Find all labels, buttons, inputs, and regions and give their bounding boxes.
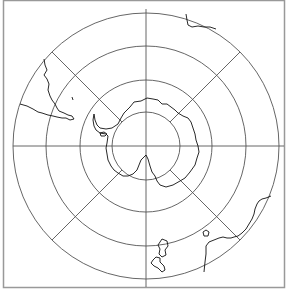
falkland-island (72, 97, 73, 100)
meridian-ne (170, 52, 240, 122)
tasmania-coastline (203, 230, 209, 236)
africa-coastline (186, 14, 216, 29)
south-america-coastline (20, 59, 74, 120)
new-zealand-north-island (158, 239, 168, 257)
map-canvas (0, 0, 287, 291)
meridian-nw (52, 52, 122, 122)
polar-map (0, 0, 287, 291)
new-zealand-south-island (151, 257, 165, 272)
meridian-sw (52, 170, 122, 240)
